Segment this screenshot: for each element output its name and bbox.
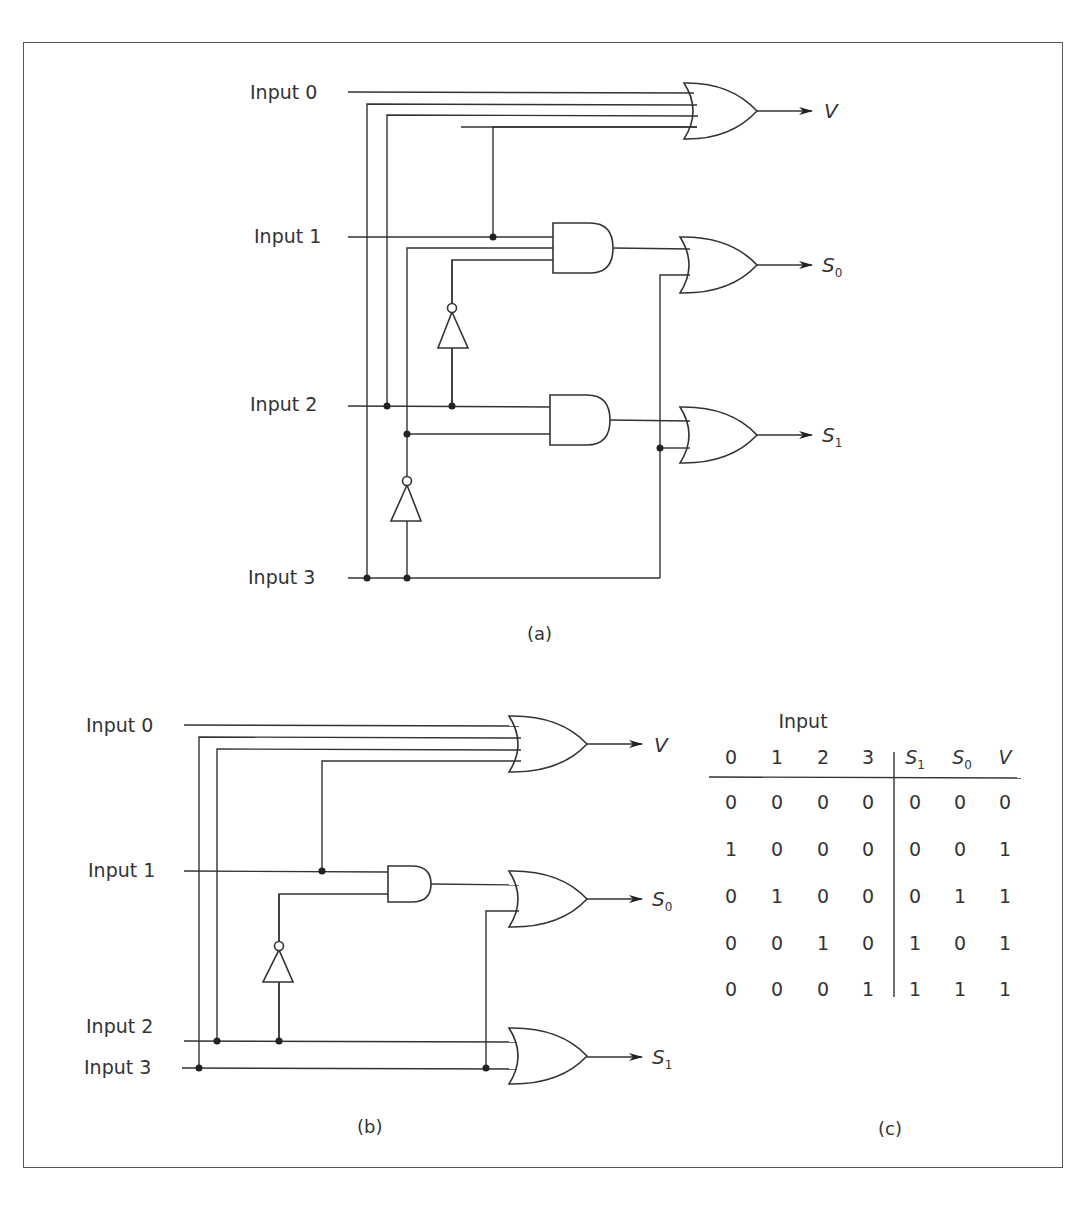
label-input-2-b: Input 2 (86, 1015, 153, 1037)
svg-text:0: 0 (771, 838, 783, 860)
caption-c: (c) (878, 1118, 902, 1139)
svg-text:0: 0 (909, 838, 921, 860)
output-s1-a: S1 (822, 423, 842, 450)
table-row: 0 0 1 0 1 0 1 (725, 932, 1011, 954)
svg-text:0: 0 (817, 885, 829, 907)
table-header-1: 1 (771, 746, 783, 768)
label-input-3-a: Input 3 (248, 566, 315, 588)
svg-text:0: 0 (725, 932, 737, 954)
svg-text:1: 1 (862, 978, 874, 1000)
svg-text:0: 0 (817, 978, 829, 1000)
svg-text:0: 0 (954, 838, 966, 860)
table-row: 0 0 0 1 1 1 1 (725, 978, 1011, 1000)
svg-text:1: 1 (999, 978, 1011, 1000)
svg-text:0: 0 (725, 885, 737, 907)
svg-text:1: 1 (954, 978, 966, 1000)
or-gate-s1-b (509, 1028, 587, 1084)
svg-text:1: 1 (999, 932, 1011, 954)
svg-text:0: 0 (862, 885, 874, 907)
table-header-3: 3 (862, 746, 874, 768)
output-s0-b: S0 (652, 887, 672, 914)
truth-table-c: Input 0 1 2 3 S1 S0 V 0 0 0 0 0 0 0 1 0 … (709, 710, 1021, 1139)
table-header-s0: S0 (952, 746, 972, 772)
and-gate-b (388, 866, 431, 902)
circuit-b: Input 0 Input 1 Input 2 Input 3 (84, 714, 672, 1137)
svg-text:1: 1 (999, 885, 1011, 907)
table-header-rule (709, 777, 1021, 778)
output-v-b: V (654, 733, 669, 757)
table-group-header: Input (778, 710, 827, 732)
svg-text:1: 1 (771, 885, 783, 907)
svg-text:0: 0 (725, 791, 737, 813)
table-row: 0 0 0 0 0 0 0 (725, 791, 1011, 813)
svg-text:0: 0 (909, 885, 921, 907)
and-gate-bottom-a (550, 395, 610, 445)
and-gate-top-a (553, 223, 613, 273)
svg-text:0: 0 (771, 978, 783, 1000)
label-input-1-b: Input 1 (88, 859, 155, 881)
or-gate-s0-a (680, 237, 757, 293)
output-s0-a: S0 (822, 253, 842, 280)
svg-text:1: 1 (909, 978, 921, 1000)
svg-text:0: 0 (771, 791, 783, 813)
svg-text:1: 1 (817, 932, 829, 954)
output-v-a: V (824, 99, 839, 123)
svg-text:0: 0 (862, 838, 874, 860)
svg-text:0: 0 (862, 791, 874, 813)
inverter-top-a (438, 312, 468, 348)
svg-text:0: 0 (909, 791, 921, 813)
or-gate-s0-b (509, 871, 587, 927)
table-header-s1: S1 (905, 746, 925, 772)
svg-text:0: 0 (817, 838, 829, 860)
table-row: 1 0 0 0 0 0 1 (725, 838, 1011, 860)
svg-text:1: 1 (725, 838, 737, 860)
table-header-2: 2 (817, 746, 829, 768)
or-gate-s1-a (680, 407, 757, 463)
svg-text:1: 1 (909, 932, 921, 954)
table-header-v: V (999, 746, 1014, 768)
svg-text:0: 0 (954, 791, 966, 813)
svg-text:0: 0 (999, 791, 1011, 813)
or-gate-v-a (684, 83, 757, 139)
inverter-b (263, 950, 293, 982)
svg-text:0: 0 (817, 791, 829, 813)
svg-text:0: 0 (725, 978, 737, 1000)
figure-canvas: Input 0 Input 1 Input 2 Input 3 (0, 0, 1087, 1220)
label-input-1-a: Input 1 (254, 225, 321, 247)
label-input-3-b: Input 3 (84, 1056, 151, 1078)
svg-text:0: 0 (862, 932, 874, 954)
or-gate-v-b (509, 716, 587, 772)
label-input-0-b: Input 0 (86, 714, 153, 736)
svg-text:0: 0 (771, 932, 783, 954)
table-row: 0 1 0 0 0 1 1 (725, 885, 1011, 907)
label-input-2-a: Input 2 (250, 393, 317, 415)
table-header-0: 0 (725, 746, 737, 768)
caption-b: (b) (357, 1116, 382, 1137)
svg-text:1: 1 (954, 885, 966, 907)
inverter-bottom-a (391, 485, 421, 521)
svg-text:1: 1 (999, 838, 1011, 860)
circuit-a: Input 0 Input 1 Input 2 Input 3 (248, 81, 842, 644)
output-s1-b: S1 (652, 1045, 672, 1072)
label-input-0-a: Input 0 (250, 81, 317, 103)
svg-text:0: 0 (954, 932, 966, 954)
caption-a: (a) (527, 623, 552, 644)
